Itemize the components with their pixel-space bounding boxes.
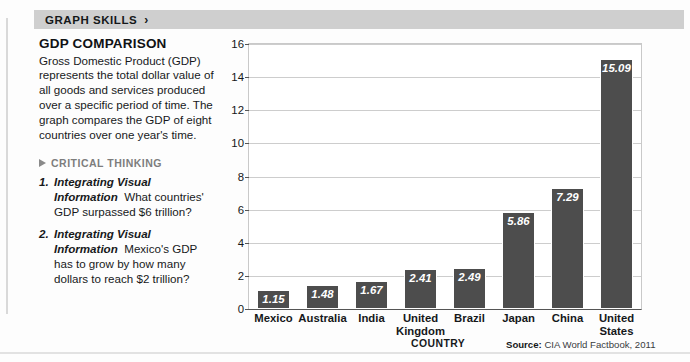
bar-slot: 1.15 [257,44,290,309]
critical-thinking-label: CRITICAL THINKING [51,157,162,169]
y-axis-tick-label: 2 [238,270,244,282]
page-canvas: GRAPH SKILLS › GDP COMPARISON Gross Dome… [0,0,690,362]
bar-value-label: 2.49 [454,271,485,283]
bar-value-label: 5.86 [503,215,534,227]
bar-value-label: 1.67 [356,284,387,296]
header-title: GRAPH SKILLS [45,14,137,26]
source-note: Source: CIA World Factbook, 2011 [506,339,656,350]
x-axis-tick-label: India [347,312,396,325]
page-title: GDP COMPARISON [39,36,217,52]
bar[interactable]: 1.15 [257,290,290,309]
bar-chart: U.S. DOLLARS (IN TRILLIONS) 024681012141… [206,34,686,354]
y-axis-tick-label: 6 [238,204,244,216]
bar[interactable]: 1.67 [355,281,388,309]
question-number: 2. [39,227,49,242]
y-axis-tick-label: 0 [238,303,244,315]
x-axis-tick-label: Brazil [445,312,494,325]
chevron-right-icon: › [144,14,148,26]
x-axis-tick-label: Japan [494,312,543,325]
bar[interactable]: 5.86 [502,212,535,309]
bar-value-label: 7.29 [552,191,583,203]
bar[interactable]: 15.09 [600,59,633,309]
triangle-right-icon [39,159,46,167]
bar-value-label: 1.15 [258,293,289,305]
y-axis-tick-label: 16 [231,38,244,50]
list-item: 2.Integrating Visual Information Mexico'… [39,227,217,287]
graph-skills-header: GRAPH SKILLS › [34,10,684,29]
intro-paragraph: Gross Domestic Product (GDP) represents … [39,54,217,143]
bar[interactable]: 1.48 [306,285,339,310]
left-margin-rule [6,18,8,314]
y-axis-tick-mark [245,309,249,310]
y-axis-tick-label: 4 [238,237,244,249]
bar-slot: 5.86 [502,44,535,309]
bar-slot: 7.29 [551,44,584,309]
bar-slot: 2.41 [404,44,437,309]
x-axis-tick-label: China [543,312,592,325]
bar-value-label: 15.09 [601,62,632,74]
x-axis-tick-label: Australia [298,312,347,325]
bar[interactable]: 7.29 [551,188,584,309]
question-number: 1. [39,175,49,190]
y-axis-tick-label: 10 [231,137,244,149]
bar-value-label: 1.48 [307,288,338,300]
x-axis-tick-label: United Kingdom [396,312,445,339]
bar-series: 1.151.481.672.412.495.867.2915.09 [249,44,641,309]
bar-slot: 1.67 [355,44,388,309]
y-axis-tick-label: 14 [231,71,244,83]
x-axis-tick-label: United States [592,312,641,339]
y-axis-tick-label: 12 [231,104,244,116]
bar-slot: 2.49 [453,44,486,309]
x-axis-tick-label: Mexico [249,312,298,325]
bar-value-label: 2.41 [405,272,436,284]
sidebar-text-column: GDP COMPARISON Gross Domestic Product (G… [39,36,217,294]
critical-thinking-heading: CRITICAL THINKING [39,157,217,169]
source-text: CIA World Factbook, 2011 [544,339,655,350]
y-axis-tick-label: 8 [238,171,244,183]
plot-area: 0246810121416 1.151.481.672.412.495.867.… [248,43,642,310]
questions-list: 1.Integrating Visual Information What co… [39,175,217,287]
bar-slot: 15.09 [600,44,633,309]
x-axis-label: COUNTRY [411,338,465,349]
source-prefix: Source: [506,339,542,350]
bar-slot: 1.48 [306,44,339,309]
bar[interactable]: 2.49 [453,268,486,309]
bar[interactable]: 2.41 [404,269,437,309]
list-item: 1.Integrating Visual Information What co… [39,175,217,220]
